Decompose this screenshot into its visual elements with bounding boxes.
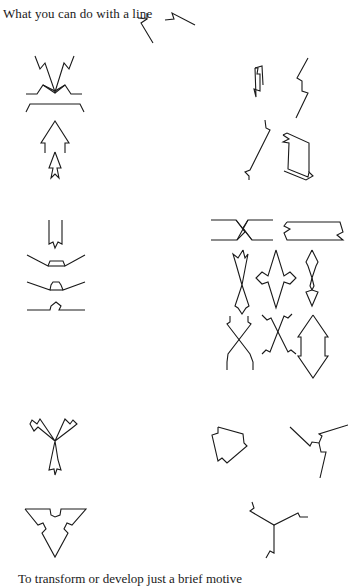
bump-trough-shape <box>27 282 85 290</box>
three-arm-zigzag-shape <box>290 425 348 478</box>
page-footer-caption: To transform or develop just a brief mot… <box>18 571 242 587</box>
bump-line-shape <box>27 302 85 310</box>
notched-tube-shape <box>49 220 62 248</box>
crossed-x-1-shape <box>227 316 253 370</box>
crossed-x-2-shape <box>262 314 296 354</box>
small-notched-bar-shape <box>254 66 263 97</box>
lightning-zigzag-shape <box>296 58 308 118</box>
double-arrow-shape <box>306 250 318 306</box>
crossed-bands-shape <box>211 220 273 240</box>
pentagon-shape <box>212 427 247 463</box>
four-point-diamond-shape <box>256 250 296 308</box>
v-notch-shape <box>35 56 74 92</box>
long-diagonal-shape <box>245 120 270 180</box>
hourglass-arrows-shape <box>233 250 249 314</box>
motive-figure-1 <box>138 13 153 43</box>
motive-figure-2 <box>165 13 195 25</box>
notched-rectangle-shape <box>284 222 343 240</box>
wide-trough-shape <box>27 255 85 266</box>
notched-triangle-shape <box>25 509 86 557</box>
double-headed-arrow-shape <box>298 315 328 378</box>
three-arm-star-shape <box>30 419 77 475</box>
three-arm-spiral-shape <box>250 502 308 558</box>
bracket-bar-shape <box>26 104 84 112</box>
parallelogram-shape <box>283 133 313 180</box>
large-arrow-shape <box>41 121 69 153</box>
small-arrow-shape <box>49 152 61 178</box>
